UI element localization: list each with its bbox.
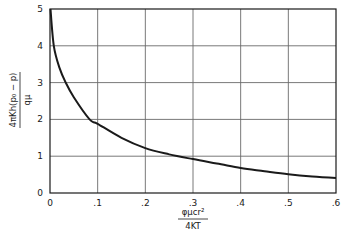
- x-label-numerator: φμcr²: [182, 207, 205, 217]
- x-tick-label: .1: [93, 198, 102, 208]
- x-axis-label: φμcr² 4KT: [178, 207, 208, 231]
- y-tick-label: 0: [37, 188, 43, 198]
- y-tick-label: 3: [37, 78, 43, 88]
- chart: 0.1.2.3.4.5.6 012345 φμcr² 4KT 4πKh(p₀ −…: [0, 0, 345, 245]
- x-tick-label: .6: [332, 198, 341, 208]
- x-tick-label: .2: [141, 198, 150, 208]
- x-tick-label: 0: [47, 198, 53, 208]
- x-tick-label: .4: [236, 198, 245, 208]
- x-label-denominator: 4KT: [185, 221, 201, 231]
- x-tick-label: .5: [284, 198, 293, 208]
- y-axis-label: 4πKh(p₀ − p) qμ: [8, 72, 32, 128]
- grid-lines: [50, 9, 336, 193]
- y-axis-ticks: 012345: [37, 4, 43, 198]
- y-label-numerator: 4πKh(p₀ − p): [8, 73, 18, 128]
- y-tick-label: 1: [37, 151, 43, 161]
- y-label-denominator: qμ: [22, 94, 32, 105]
- y-tick-label: 4: [37, 41, 43, 51]
- y-tick-label: 2: [37, 114, 43, 124]
- y-tick-label: 5: [37, 4, 43, 14]
